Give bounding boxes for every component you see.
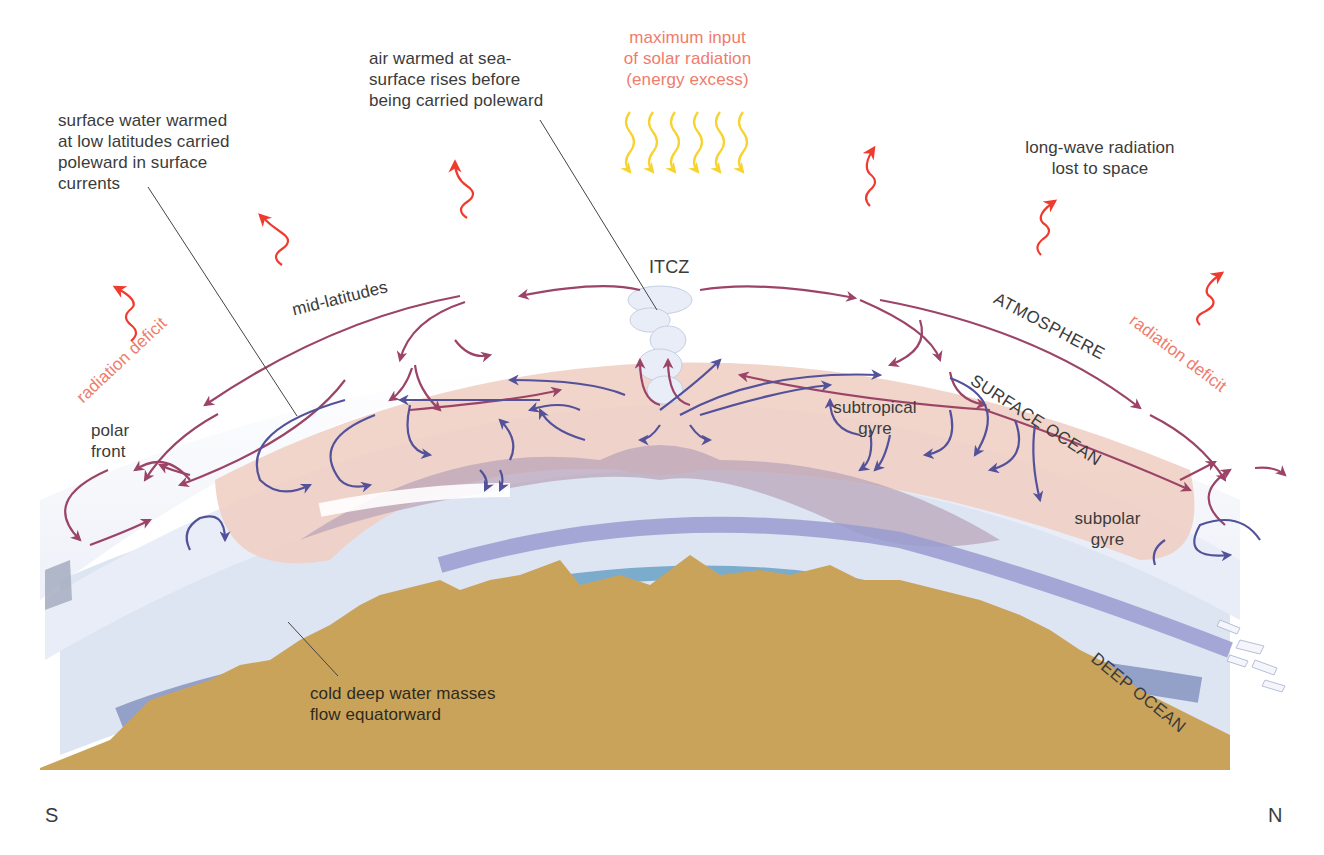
label-subtropical-gyre: subtropical gyre bbox=[825, 397, 925, 439]
label-north: N bbox=[1268, 805, 1283, 826]
label-itcz: ITCZ bbox=[649, 257, 689, 278]
label-subpolar-gyre: subpolar gyre bbox=[1065, 508, 1150, 550]
label-polar-front: polar front bbox=[91, 420, 129, 462]
label-air-warmed: air warmed at sea- surface rises before … bbox=[369, 48, 589, 111]
solar-radiation-icon bbox=[626, 112, 747, 172]
label-surface-water-warmed: surface water warmed at low latitudes ca… bbox=[58, 110, 278, 194]
label-south: S bbox=[45, 805, 58, 826]
label-cold-deep-water: cold deep water masses flow equatorward bbox=[310, 683, 496, 725]
label-solar-input: maximum input of solar radiation (energy… bbox=[600, 27, 775, 90]
label-longwave-radiation: long-wave radiation lost to space bbox=[1000, 137, 1200, 179]
